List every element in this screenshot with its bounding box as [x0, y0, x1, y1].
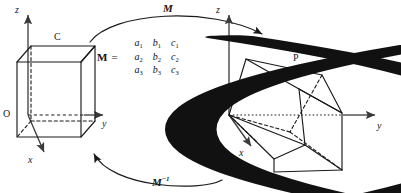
left-cube	[17, 46, 95, 137]
transformation-figure: z y x O C z y x O P M M−1 M = a1b1c1a2b2…	[0, 0, 401, 193]
left-cube-hidden-edge-3	[17, 121, 31, 137]
matrix-equals-sign: =	[111, 51, 117, 63]
matrix-cell-subscript: 3	[158, 69, 161, 76]
left-y-axis-label: y	[102, 119, 106, 129]
right-paren-icon	[185, 33, 192, 80]
matrix-cell-subscript: 1	[176, 42, 179, 49]
forward-transform-label: M	[163, 3, 173, 14]
matrix-cell-subscript: 3	[176, 69, 179, 76]
left-cube-vertex-label-c: C	[54, 32, 61, 42]
left-z-axis-label: z	[15, 5, 19, 15]
matrix-cell-subscript: 1	[158, 42, 161, 49]
right-z-axis-label: z	[216, 5, 220, 15]
left-x-axis-label: x	[28, 155, 32, 165]
matrix-symbol: M	[97, 51, 107, 63]
left-cube-right-face	[81, 46, 95, 137]
left-x-axis	[28, 115, 44, 152]
left-origin-label: O	[3, 109, 10, 119]
matrix-body: a1b1c1a2b2c2a3b3c3	[122, 33, 192, 80]
matrix-equation: M = a1b1c1a2b2c2a3b3c3	[97, 33, 192, 80]
matrix-cell-subscript: 3	[140, 69, 143, 76]
matrix-cell-subscript: 2	[176, 56, 179, 63]
matrix-cell-subscript: 1	[140, 42, 143, 49]
left-axes	[28, 15, 103, 152]
matrix-cell-subscript: 2	[140, 56, 143, 63]
left-paren-icon	[122, 33, 129, 80]
matrix-cell-subscript: 2	[158, 56, 161, 63]
